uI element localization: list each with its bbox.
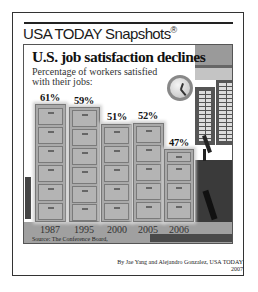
value-label: 52% <box>132 110 164 121</box>
filing-cabinet-bar <box>101 124 132 222</box>
x-tick-label: 1987 <box>34 224 66 235</box>
chart-title: U.S. job satisfaction declines <box>32 48 205 66</box>
x-tick-label: 2005 <box>132 224 164 235</box>
source-line: Source: The Conference Board, <box>32 236 125 243</box>
brand-title: USA TODAY Snapshots® <box>23 25 177 42</box>
byline: By Jae Yang and Alejandro Gonzalez, USA … <box>117 259 243 273</box>
doorframe-illustration <box>25 177 31 219</box>
chart-subtitle: Percentage of workers satisfied with the… <box>32 67 162 87</box>
desk-base <box>150 234 233 242</box>
x-tick-label: 2000 <box>101 224 133 235</box>
lamp-stem <box>203 149 206 161</box>
brand-text: USA TODAY Snapshots <box>23 25 171 42</box>
value-label: 47% <box>163 137 195 148</box>
value-label: 61% <box>34 92 66 103</box>
x-tick-label: 1995 <box>68 224 100 235</box>
filing-cabinet-bar <box>133 123 164 222</box>
top-rule <box>24 22 233 24</box>
source-note: Source: The Conference Board, TNS survey… <box>32 236 125 244</box>
value-label: 59% <box>68 95 100 106</box>
value-label: 51% <box>101 111 133 122</box>
filing-cabinet-bar <box>164 149 194 222</box>
filing-cabinet-bar <box>35 104 66 222</box>
source-line: TNS survey of 5,000 U.S. households. <box>32 243 125 244</box>
infographic-panel: U.S. job satisfaction declines Percentag… <box>23 44 233 244</box>
byline-year: 2007 <box>117 266 243 273</box>
registered-mark: ® <box>171 25 177 35</box>
x-tick-label: 2006 <box>163 224 195 235</box>
filing-cabinet-bar <box>69 107 100 222</box>
byline-authors: By Jae Yang and Alejandro Gonzalez, USA … <box>117 259 243 266</box>
clock-icon <box>167 75 193 101</box>
